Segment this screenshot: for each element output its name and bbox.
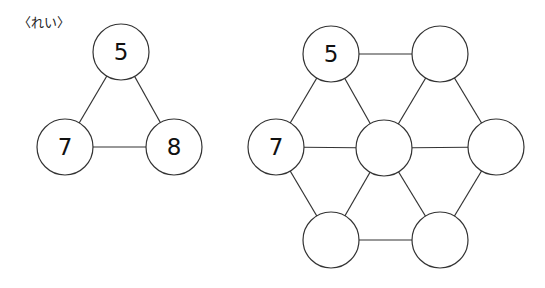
puzzle-node-r[interactable] — [468, 119, 524, 175]
puzzle-hexagon: 57 — [248, 26, 524, 268]
puzzle-node-br[interactable] — [412, 212, 468, 268]
puzzle-node-bl[interactable] — [303, 212, 359, 268]
puzzle-node-value-tl: 5 — [324, 41, 339, 67]
diagram-canvas: 578 57 — [0, 0, 545, 288]
puzzle-node-tr[interactable] — [412, 26, 468, 82]
example-node-value-top: 5 — [114, 39, 129, 65]
example-triangle: 578 — [37, 24, 202, 175]
puzzle-node-value-l: 7 — [269, 134, 284, 160]
puzzle-node-c[interactable] — [356, 120, 412, 176]
example-node-value-left: 7 — [58, 134, 73, 160]
example-node-value-right: 8 — [167, 134, 182, 160]
